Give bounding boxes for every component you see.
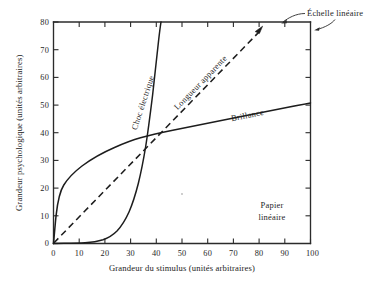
x-tick-label-90: 90 — [280, 249, 289, 258]
y-tick-label-50: 50 — [40, 101, 49, 110]
x-tick-label-70: 70 — [229, 249, 238, 258]
x-tick-label-60: 60 — [203, 249, 212, 258]
x-tick-label-80: 80 — [255, 249, 264, 258]
y-axis-title: Grandeur psychologique (unités arbitrair… — [14, 54, 24, 211]
y-tick-label-0: 0 — [45, 239, 49, 248]
y-tick-label-30: 30 — [40, 156, 49, 165]
curve-label-longueur-apparente: Longueur apparente — [173, 54, 229, 112]
x-tick-label-100: 100 — [306, 249, 319, 258]
top-axis-ticks — [79, 22, 285, 27]
x-tick-label-10: 10 — [75, 249, 84, 258]
x-tick-label-20: 20 — [101, 249, 110, 258]
y-tick-labels: 0 10 20 30 40 50 60 70 80 — [40, 18, 49, 248]
right-axis-ticks — [306, 50, 311, 216]
series-curve-choc-electrique — [54, 22, 162, 244]
series-curve-brillance — [54, 103, 311, 244]
annotation-papier-line2: linéaire — [258, 212, 285, 222]
y-tick-label-80: 80 — [40, 18, 49, 27]
curve-label-brillance: Brillance — [230, 108, 264, 123]
x-tick-label-40: 40 — [152, 249, 161, 258]
x-axis-title: Grandeur du stimulus (unités arbitraires… — [109, 263, 255, 273]
series-curve-longueur-apparente — [54, 31, 260, 243]
y-tick-label-60: 60 — [40, 73, 49, 82]
y-tick-label-10: 10 — [40, 212, 49, 221]
annotation-echelle-lineaire: Échelle linéaire — [307, 8, 363, 18]
y-tick-label-70: 70 — [40, 46, 49, 55]
figure-root: 0 10 20 30 40 50 60 70 80 0 10 20 30 40 … — [0, 0, 390, 289]
longueur-apparente-arrowhead — [255, 26, 262, 33]
plot-frame — [54, 22, 311, 244]
x-tick-label-0: 0 — [51, 249, 55, 258]
scan-speck — [181, 193, 183, 195]
x-tick-label-50: 50 — [178, 249, 187, 258]
x-tick-labels: 0 10 20 30 40 50 60 70 80 90 100 — [51, 249, 319, 258]
x-tick-label-30: 30 — [126, 249, 135, 258]
echelle-arrowhead-right — [314, 27, 320, 31]
linear-scale-power-law-chart: 0 10 20 30 40 50 60 70 80 0 10 20 30 40 … — [0, 0, 390, 289]
y-tick-label-20: 20 — [40, 184, 49, 193]
annotation-papier-line1: Papier — [261, 200, 284, 210]
y-tick-label-40: 40 — [40, 129, 49, 138]
